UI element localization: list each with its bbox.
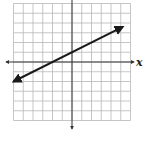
coordinate-graph: x bbox=[0, 0, 146, 141]
x-axis-label: x bbox=[135, 56, 143, 69]
line-y-equals-half-x-plus-1 bbox=[14, 27, 123, 82]
